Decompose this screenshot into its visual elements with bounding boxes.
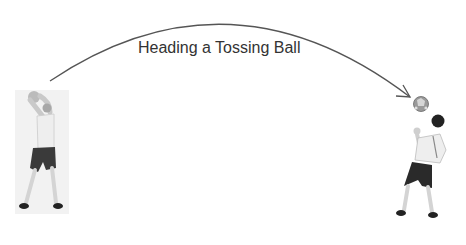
diagram-canvas bbox=[0, 0, 466, 245]
soccer-ball-icon bbox=[414, 97, 429, 112]
diagram-stage: Heading a Tossing Ball bbox=[0, 0, 466, 245]
trajectory-arrow-icon bbox=[50, 24, 410, 97]
heading-player-icon bbox=[396, 115, 446, 219]
diagram-title: Heading a Tossing Ball bbox=[138, 39, 300, 57]
thrower-player-icon bbox=[19, 91, 63, 209]
